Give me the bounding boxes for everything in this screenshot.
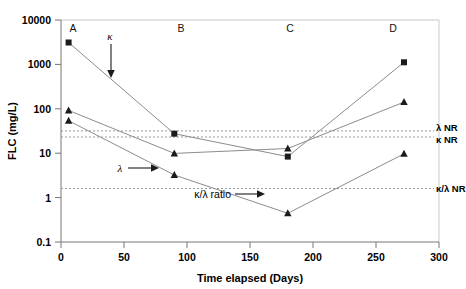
panel-letter-b: B <box>177 22 184 34</box>
reference-label-lambda-nr: λ NR <box>436 122 458 133</box>
x-tick-label-300: 300 <box>430 251 448 263</box>
x-tick-label-0: 0 <box>58 251 64 263</box>
x-tick-label-250: 250 <box>367 251 385 263</box>
x-axis-title: Time elapsed (Days) <box>197 272 304 284</box>
y-tick-label-10000: 10000 <box>22 14 51 26</box>
annotation-label-kappa: κ <box>107 30 113 42</box>
data-point-kappa-1 <box>171 131 177 137</box>
annotation-label-ratio: κ/λ ratio <box>194 188 231 200</box>
flc-time-course-chart: 10000 1000 100 10 1 0.1 0 50 100 150 200… <box>0 0 466 289</box>
y-axis-title: FLC (mg/L) <box>6 102 18 160</box>
annotation-label-lambda: λ <box>117 162 123 174</box>
data-point-kappa-2 <box>285 154 291 160</box>
x-tick-label-200: 200 <box>304 251 322 263</box>
y-tick-label-10: 10 <box>39 147 51 159</box>
x-tick-label-50: 50 <box>118 251 130 263</box>
data-point-kappa-3 <box>401 59 407 65</box>
panel-letter-d: D <box>389 22 397 34</box>
y-tick-label-1000: 1000 <box>28 58 52 70</box>
panel-letter-a: A <box>69 22 76 34</box>
data-point-kappa-0 <box>66 40 72 46</box>
reference-label-ratio-nr: κ/λ NR <box>436 183 466 194</box>
x-tick-label-100: 100 <box>178 251 196 263</box>
reference-label-kappa-nr: κ NR <box>436 134 458 145</box>
y-tick-label-0.1: 0.1 <box>36 236 51 248</box>
y-tick-label-100: 100 <box>33 103 51 115</box>
chart-canvas: 10000 1000 100 10 1 0.1 0 50 100 150 200… <box>0 0 466 289</box>
x-tick-label-150: 150 <box>241 251 259 263</box>
panel-letter-c: C <box>286 22 294 34</box>
y-tick-label-1: 1 <box>45 192 51 204</box>
